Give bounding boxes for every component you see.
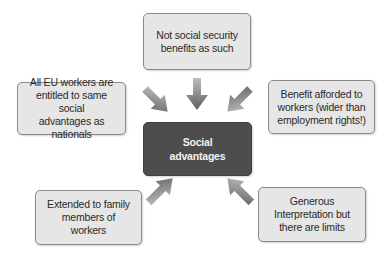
node-left: All EU workers are entitled to same soci… <box>17 82 126 135</box>
arrow-left-to-center-icon <box>138 82 175 119</box>
arrow-right-to-center-icon <box>220 82 257 119</box>
node-center: Social advantages <box>143 122 252 176</box>
arrow-bottom-right-to-center-icon <box>220 171 258 209</box>
arrow-bottom-left-to-center-icon <box>142 171 180 209</box>
node-top: Not social security benefits as such <box>143 13 251 70</box>
node-bottom-left: Extended to family members of workers <box>35 190 142 245</box>
node-top-label: Not social security benefits as such <box>156 29 237 55</box>
node-left-label: All EU workers are entitled to same soci… <box>22 76 121 141</box>
node-right: Benefit afforded to workers (wider than … <box>268 80 375 134</box>
node-bottom-right-label: Generous Interpretation but there are li… <box>274 195 350 234</box>
arrow-top-to-center-icon <box>186 78 208 110</box>
node-right-label: Benefit afforded to workers (wider than … <box>277 88 365 127</box>
node-bottom-right: Generous Interpretation but there are li… <box>258 187 366 242</box>
node-bottom-left-label: Extended to family members of workers <box>47 198 130 237</box>
node-center-label: Social advantages <box>170 135 226 163</box>
